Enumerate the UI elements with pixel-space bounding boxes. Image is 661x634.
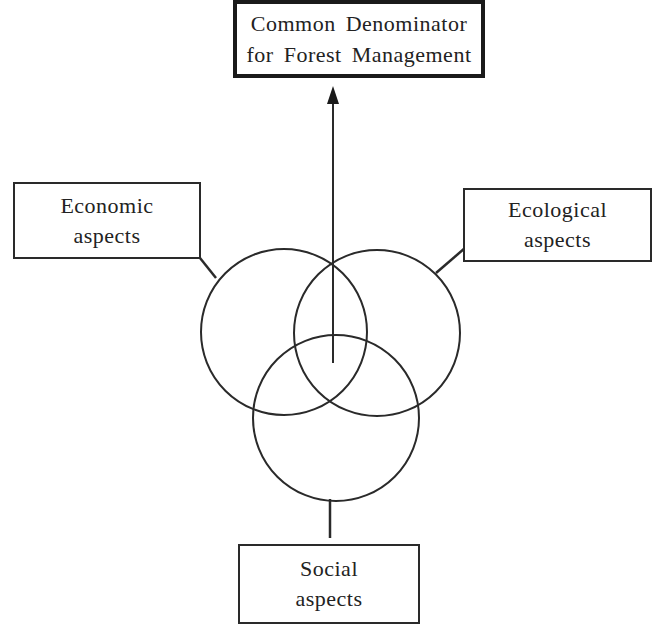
social-line-1: Social <box>300 554 358 584</box>
social-line-2: aspects <box>295 584 362 614</box>
venn-diagram <box>0 0 661 634</box>
economic-line-1: Economic <box>60 191 153 221</box>
goal-line-1: Common Denominator <box>251 8 467 39</box>
ecological-box: Ecological aspects <box>463 188 652 262</box>
economic-box: Economic aspects <box>13 182 201 259</box>
ecological-line-1: Ecological <box>508 195 607 225</box>
arrow-head-icon <box>327 86 339 104</box>
ecological-circle <box>294 250 460 416</box>
goal-box: Common Denominator for Forest Management <box>233 0 485 78</box>
goal-line-2: for Forest Management <box>247 39 472 70</box>
ecological-line-2: aspects <box>524 225 591 255</box>
social-box: Social aspects <box>238 544 420 624</box>
ecological-connector <box>436 248 465 273</box>
economic-circle <box>201 249 367 415</box>
social-circle <box>253 335 419 501</box>
economic-line-2: aspects <box>73 221 140 251</box>
economic-connector <box>200 258 216 278</box>
